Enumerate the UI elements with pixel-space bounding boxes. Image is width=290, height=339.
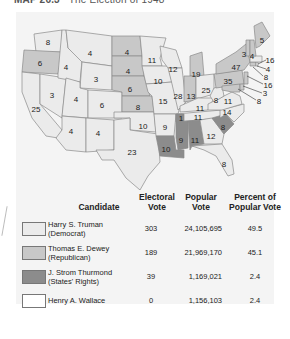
swatch-democrat (22, 222, 46, 236)
header-candidate: Candidate (54, 202, 144, 212)
label-ga: 12 (207, 132, 216, 141)
label-ky: 11 (196, 104, 205, 113)
candidate-name: J. Strom Thurmond (States' Rights) (48, 268, 112, 286)
table-row-wallace: Henry A. Wallace 0 1,156,103 2.4 (20, 292, 270, 314)
leader-de (243, 86, 262, 93)
state-nj (244, 72, 248, 84)
candidate-name: Thomas E. Dewey (Republican) (48, 244, 109, 262)
label-ia: 10 (154, 77, 163, 86)
label-pa: 35 (224, 77, 233, 86)
electoral-vote: 303 (136, 224, 166, 233)
label-wv: 8 (214, 96, 219, 105)
label-ut: 4 (74, 95, 79, 104)
label-wa: 8 (46, 38, 51, 47)
label-co: 6 (100, 101, 105, 110)
label-nd: 4 (125, 48, 130, 57)
label-vt: 3 (242, 50, 247, 59)
state-de (240, 84, 244, 90)
state-fl (192, 144, 234, 176)
label-al: 11 (191, 136, 200, 145)
label-sd: 4 (126, 67, 131, 76)
header-popular: Popular Vote (180, 192, 222, 212)
label-mt: 4 (88, 49, 93, 58)
label-il: 28 (174, 92, 183, 101)
candidate-name: Henry A. Wallace (48, 296, 105, 305)
electoral-vote: 39 (136, 272, 166, 281)
leader-ri (257, 66, 266, 69)
label-de: 3 (263, 89, 268, 98)
swatch-republican (22, 246, 46, 260)
decorative-mark (1, 206, 7, 236)
popular-vote: 24,105,695 (170, 224, 222, 233)
label-ar: 9 (163, 123, 168, 132)
percent-vote: 45.1 (242, 248, 268, 257)
percent-vote: 2.4 (242, 296, 268, 305)
label-ok: 10 (139, 122, 148, 131)
label-me: 5 (260, 36, 265, 45)
label-nh: 4 (250, 52, 255, 61)
table-row-truman: Harry S. Truman (Democrat) 303 24,105,69… (20, 220, 270, 242)
label-mo: 15 (159, 97, 168, 106)
label-in: 13 (187, 92, 196, 101)
electoral-vote: 0 (136, 296, 166, 305)
label-az: 4 (69, 127, 74, 136)
label-md: 8 (257, 97, 262, 106)
label-ca: 25 (32, 105, 41, 114)
table-row-dewey: Thomas E. Dewey (Republican) 189 21,969,… (20, 244, 270, 266)
label-va: 11 (224, 97, 233, 106)
label-wy: 3 (94, 75, 99, 84)
table-row-thurmond: J. Strom Thurmond (States' Rights) 39 1,… (20, 268, 270, 290)
label-nv: 3 (50, 91, 55, 100)
label-ne: 6 (128, 85, 133, 94)
state-ct (250, 62, 256, 66)
label-tn: 11 (194, 113, 203, 122)
swatch-wallace (22, 294, 46, 308)
header-percent: Percent of Popular Vote (218, 192, 290, 212)
electoral-vote: 189 (136, 248, 166, 257)
leader-ct (253, 67, 263, 76)
label-ma: 16 (266, 56, 275, 65)
label-fl: 8 (222, 160, 227, 169)
percent-vote: 49.5 (242, 224, 268, 233)
label-mi: 19 (192, 70, 201, 79)
label-or: 6 (38, 59, 43, 68)
label-mn: 11 (148, 56, 157, 65)
label-oh: 25 (202, 86, 211, 95)
percent-vote: 2.4 (242, 272, 268, 281)
label-ms: 9 (179, 136, 184, 145)
us-electoral-map: 8 6 25 4 3 4 3 4 6 4 4 4 4 6 8 10 23 11 … (0, 0, 290, 190)
label-wi: 12 (169, 65, 178, 74)
label-sc: 8 (221, 123, 226, 132)
label-la: 10 (162, 145, 171, 154)
label-ks: 8 (136, 103, 141, 112)
label-tx: 23 (128, 148, 137, 157)
label-id: 4 (64, 63, 69, 72)
label-nm: 4 (96, 129, 101, 138)
popular-vote: 1,169,021 (170, 272, 222, 281)
popular-vote: 1,156,103 (170, 296, 222, 305)
label-ny: 47 (232, 63, 241, 72)
state-ri (256, 62, 258, 66)
popular-vote: 21,969,170 (170, 248, 222, 257)
candidate-name: Harry S. Truman (Democrat) (48, 220, 103, 238)
header-electoral: Electoral Vote (136, 192, 178, 212)
leader-nj (247, 76, 263, 84)
label-nc: 14 (223, 108, 232, 117)
swatch-states-rights (22, 270, 46, 284)
label-tn-split: 1 (179, 114, 184, 123)
